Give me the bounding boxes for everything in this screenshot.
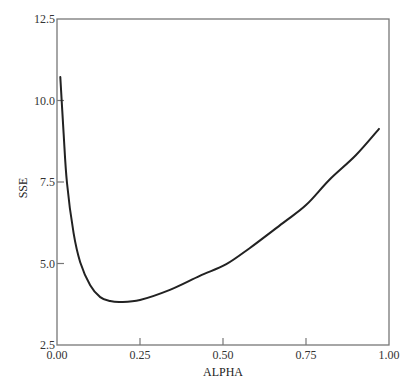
x-tick-label: 0.75 (296, 348, 317, 362)
y-tick-label: 5.0 (40, 257, 55, 271)
x-axis-label: ALPHA (203, 365, 243, 379)
x-tick-label: 0.50 (213, 348, 234, 362)
y-axis-label: SSE (16, 178, 30, 199)
x-tick-label: 0.25 (130, 348, 151, 362)
plot-frame (57, 19, 389, 345)
y-tick-label: 12.5 (34, 12, 55, 26)
sse-vs-alpha-chart: 0.000.250.500.751.00 2.55.07.510.012.5 A… (0, 0, 417, 390)
x-axis-ticks: 0.000.250.500.751.00 (47, 338, 400, 362)
sse-curve (60, 77, 379, 302)
y-tick-label: 7.5 (40, 175, 55, 189)
x-tick-label: 1.00 (379, 348, 400, 362)
y-tick-label: 10.0 (34, 94, 55, 108)
y-tick-label: 2.5 (40, 338, 55, 352)
plot-border (57, 19, 389, 345)
y-axis-ticks: 2.55.07.510.012.5 (34, 12, 64, 352)
